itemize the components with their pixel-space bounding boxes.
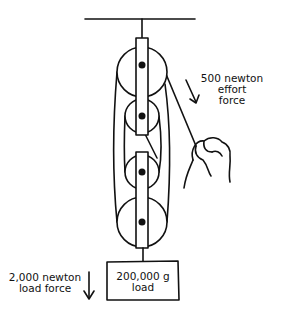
load-text: load <box>107 282 179 293</box>
load-force-arrow-icon <box>84 272 94 299</box>
pulley-strap-bottom <box>136 152 148 248</box>
load-force-label: 2,000 newton load force <box>6 272 84 294</box>
axle-dot <box>139 113 146 120</box>
effort-force-label: 500 newton effort force <box>196 73 268 106</box>
axle-dot <box>139 219 146 226</box>
pulley-diagram: 500 newton effort force 2,000 newton loa… <box>0 0 283 316</box>
axle-dot <box>139 62 146 69</box>
effort-text-force: force <box>196 95 268 106</box>
load-force-text: load force <box>6 283 84 294</box>
axle-dot <box>139 169 146 176</box>
rope <box>114 72 196 222</box>
hand-icon <box>184 138 230 188</box>
pulley-strap-top <box>136 38 148 135</box>
load-label: 200,000 g load <box>107 271 179 293</box>
